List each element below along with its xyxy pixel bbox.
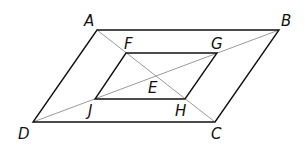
label-j: J xyxy=(85,102,92,120)
label-f: F xyxy=(124,35,133,53)
label-h: H xyxy=(175,102,186,120)
label-b: B xyxy=(281,12,291,30)
parallelogram-diagram: A B C D E F G H J xyxy=(0,0,305,148)
diagonal-db xyxy=(33,30,279,122)
label-d: D xyxy=(18,125,30,143)
label-a: A xyxy=(83,12,94,30)
label-e: E xyxy=(148,79,158,97)
label-c: C xyxy=(211,125,222,143)
label-g: G xyxy=(211,35,223,53)
